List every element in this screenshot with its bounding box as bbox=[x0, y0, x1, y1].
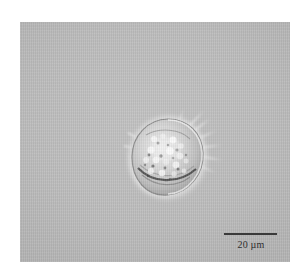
scale-bar-line bbox=[224, 233, 277, 235]
scale-bar-label: 20 µm bbox=[216, 239, 286, 251]
central-mass bbox=[151, 137, 181, 161]
microscopy-field bbox=[20, 22, 290, 262]
dinoflagellate-cell bbox=[118, 105, 230, 217]
cell-illustration bbox=[118, 105, 230, 217]
micrograph-figure: 20 µm bbox=[0, 0, 304, 276]
